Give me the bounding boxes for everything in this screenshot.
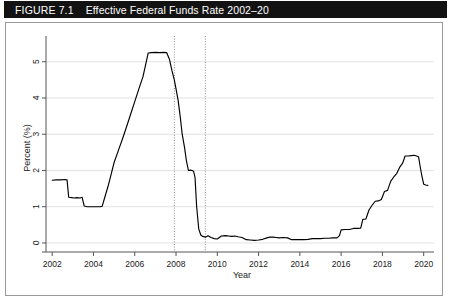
figure-header-bar: FIGURE 7.1 Effective Federal Funds Rate …	[4, 1, 447, 18]
figure-root: FIGURE 7.1 Effective Federal Funds Rate …	[0, 0, 451, 300]
figure-title: Effective Federal Funds Rate 2002–20	[86, 4, 269, 16]
figure-panel-border	[5, 22, 443, 296]
figure-number-label: FIGURE 7.1	[15, 4, 74, 16]
